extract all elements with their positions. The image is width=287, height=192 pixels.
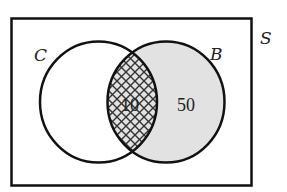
set-b-label: B	[209, 44, 223, 64]
venn-diagram: C B S 10 50	[0, 0, 287, 192]
set-c-label: C	[34, 45, 47, 65]
universe-label: S	[260, 28, 272, 48]
b-only-value: 50	[177, 95, 195, 115]
intersection-value: 10	[121, 95, 139, 115]
